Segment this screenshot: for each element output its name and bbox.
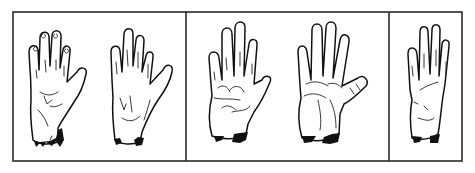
panel-1 — [29, 29, 172, 147]
panel-2 — [209, 22, 367, 144]
hand-3-outline — [209, 22, 271, 139]
hand-2-outline — [111, 29, 172, 144]
hand-3 — [209, 22, 271, 143]
hand-5-outline — [408, 25, 449, 139]
panel-3 — [408, 25, 449, 143]
hand-comparison-figure — [0, 0, 475, 173]
hand-2 — [111, 29, 172, 146]
hand-1 — [29, 31, 86, 147]
hand-5 — [408, 25, 449, 143]
hand-4-outline — [298, 22, 367, 141]
hand-4 — [298, 22, 367, 144]
